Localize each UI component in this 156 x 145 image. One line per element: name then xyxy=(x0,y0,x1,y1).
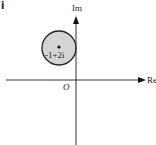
corner-label: i xyxy=(1,1,4,11)
imaginary-axis-arrow-icon xyxy=(73,16,79,24)
center-point xyxy=(57,45,60,48)
real-axis-arrow-icon xyxy=(138,77,146,83)
center-label: -1+2i xyxy=(45,51,65,60)
argand-diagram xyxy=(0,0,156,145)
real-axis-label: Re xyxy=(147,76,156,85)
origin-label: O xyxy=(63,83,70,92)
imaginary-axis-label: Im xyxy=(72,4,82,13)
